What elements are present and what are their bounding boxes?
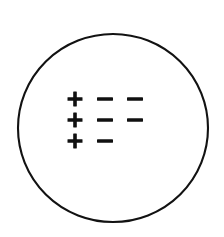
- circle-diagram: [0, 0, 224, 237]
- minus-symbol: [127, 97, 143, 100]
- minus-symbol: [97, 97, 113, 100]
- minus-symbol: [127, 118, 143, 121]
- minus-symbol: [97, 139, 113, 142]
- circle-outline: [18, 34, 208, 222]
- figure-canvas: Circle containing plus and minus symbols…: [0, 0, 224, 237]
- minus-symbol: [97, 118, 113, 121]
